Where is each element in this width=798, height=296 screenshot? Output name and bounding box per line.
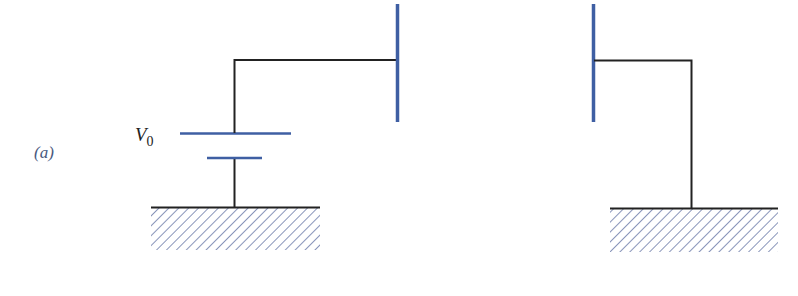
left-ground-hatch xyxy=(151,208,320,250)
left-circuit xyxy=(151,4,398,250)
circuit-diagram xyxy=(0,0,798,296)
right-ground-hatch xyxy=(610,209,778,252)
right-wire xyxy=(594,61,692,209)
right-circuit xyxy=(594,4,779,252)
left-top-wire xyxy=(235,60,398,133)
